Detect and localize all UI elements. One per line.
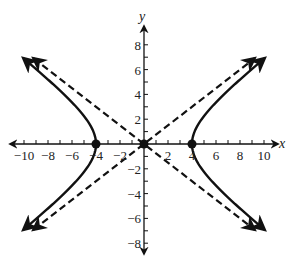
x-tick-label: −8 [41, 148, 55, 163]
y-tick-label: −4 [127, 187, 141, 202]
y-tick-label: 2 [135, 112, 142, 127]
y-tick-label: −2 [127, 162, 141, 177]
x-tick-label: 8 [237, 148, 244, 163]
x-tick-label: −2 [113, 148, 127, 163]
x-tick-label: −4 [89, 148, 103, 163]
x-tick-label: 6 [213, 148, 220, 163]
y-tick-label: 4 [135, 87, 142, 102]
x-tick-label: 2 [165, 148, 172, 163]
y-tick-label: 6 [135, 63, 142, 78]
y-tick-label: −6 [127, 211, 141, 226]
x-tick-label: 4 [189, 148, 196, 163]
x-tick-label: −6 [65, 148, 79, 163]
center-point [140, 140, 149, 149]
x-axis-label: x [278, 136, 286, 151]
y-tick-label: −8 [127, 236, 141, 251]
x-tick-label: 10 [258, 148, 271, 163]
hyperbola-chart: −10−8−6−4−22468108642−2−4−6−8xy [0, 0, 288, 256]
y-axis-label: y [137, 9, 146, 24]
x-tick-label: −10 [14, 148, 34, 163]
y-tick-label: 8 [135, 38, 142, 53]
tick-labels: −10−8−6−4−22468108642−2−4−6−8xy [14, 9, 286, 251]
